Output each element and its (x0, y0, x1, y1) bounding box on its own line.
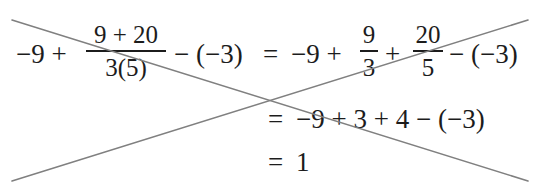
math-worked-example: −9 + 9 + 20 3(5) − (−3) = −9 + 9 3 + 20 … (0, 0, 536, 188)
cross-out-x-icon (0, 0, 536, 188)
